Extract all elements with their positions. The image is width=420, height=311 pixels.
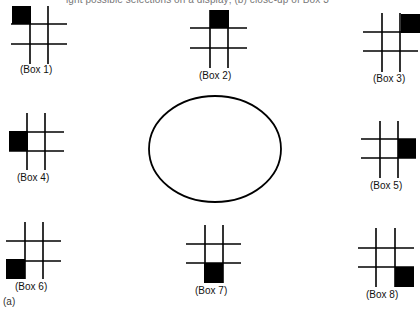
box-6-label: (Box 6) (15, 281, 47, 292)
box-7-selected-cell (204, 263, 223, 283)
box-4-label: (Box 4) (17, 172, 49, 183)
selection-diagram (0, 0, 420, 311)
box-8-selected-cell (395, 267, 414, 287)
box-1-label: (Box 1) (20, 64, 52, 75)
box-5-label: (Box 5) (370, 180, 402, 191)
box-2-selected-cell (210, 10, 229, 28)
box-3-label: (Box 3) (373, 73, 405, 84)
box-6-selected-cell (6, 259, 25, 279)
box-7-label: (Box 7) (195, 285, 227, 296)
panel-label: (a) (3, 296, 15, 307)
box-3-selected-cell (401, 14, 420, 33)
box-2-label: (Box 2) (199, 70, 231, 81)
box-1-selected-cell (12, 6, 31, 24)
box-4-selected-cell (9, 131, 28, 151)
center-ellipse (149, 96, 281, 202)
box-8-label: (Box 8) (366, 289, 398, 300)
box-5-selected-cell (398, 139, 416, 158)
